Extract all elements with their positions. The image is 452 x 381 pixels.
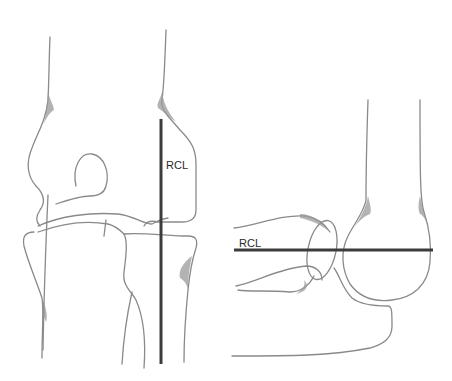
ulna-outline [23,220,106,358]
capitellum-outline [56,154,107,204]
radius-inner-edge [122,292,132,364]
ulna-outline [232,268,392,356]
ap-view-panel [23,30,196,368]
humerus-right-edge [144,30,196,226]
radius-head-outline [124,234,145,368]
humerus-anterior-shade [354,196,371,228]
joint-line-upper [38,214,168,227]
humerus-right-flare-shade [157,92,176,122]
rcl-label-lateral: RCL [239,238,261,249]
humerus-left-edge [28,37,50,226]
ulna-inner-edge [43,195,48,350]
elbow-diagram [0,0,452,381]
radius-lower-shade [296,280,307,294]
rcl-label-ap: RCL [166,160,188,171]
lateral-view-panel [232,100,433,356]
humerus-left-flare-shade [44,92,54,124]
joint-line-lower [38,222,124,234]
humerus-anterior-edge [343,100,431,300]
